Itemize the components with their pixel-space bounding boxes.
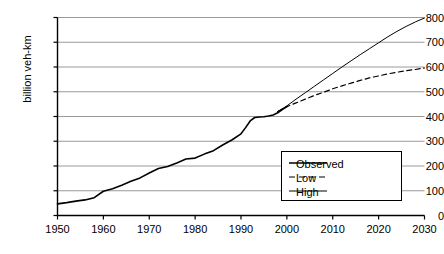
y-axis-tick-label: 0 <box>395 210 444 222</box>
x-axis-tick-label: 2010 <box>321 223 345 235</box>
legend-swatch-solid <box>288 185 328 197</box>
x-axis-tick-label: 1990 <box>229 223 253 235</box>
y-axis-tick-label: 600 <box>395 61 444 73</box>
y-axis-tick-label: 300 <box>395 135 444 147</box>
y-axis-tick-label: 500 <box>395 86 444 98</box>
x-axis-tick-label: 1980 <box>183 223 207 235</box>
y-axis-tick-label: 700 <box>395 36 444 48</box>
legend-swatch-dashed <box>288 171 328 183</box>
y-axis-tick-label: 800 <box>395 12 444 24</box>
x-axis-tick-label: 1970 <box>137 223 161 235</box>
legend-swatch-solid <box>288 157 328 169</box>
legend-item-low[interactable]: Low <box>288 171 316 185</box>
legend-item-high[interactable]: High <box>288 185 319 199</box>
x-axis-tick-label: 2000 <box>275 223 299 235</box>
chart-container: billion veh-km 0100200300400500600700800… <box>0 0 444 254</box>
series-line-observed <box>58 107 287 204</box>
x-axis-tick-label: 1960 <box>91 223 115 235</box>
chart-plot-area <box>0 0 444 254</box>
x-axis-tick-label: 2020 <box>366 223 390 235</box>
legend-box: ObservedLowHigh <box>281 151 402 201</box>
y-axis-tick-label: 400 <box>395 111 444 123</box>
legend-item-observed[interactable]: Observed <box>288 157 344 171</box>
x-axis-tick-label: 2030 <box>412 223 436 235</box>
x-axis-tick-label: 1950 <box>45 223 69 235</box>
